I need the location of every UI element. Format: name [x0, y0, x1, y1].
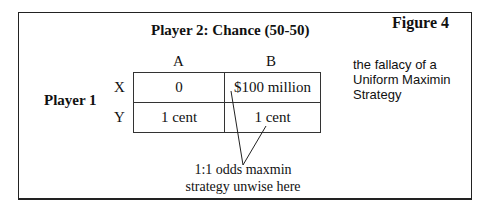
annotation-note: 1:1 odds maxmin strategy unwise here: [185, 161, 300, 195]
annotation-line: strategy unwise here: [185, 178, 300, 195]
annotation-line: 1:1 odds maxmin: [185, 161, 300, 178]
